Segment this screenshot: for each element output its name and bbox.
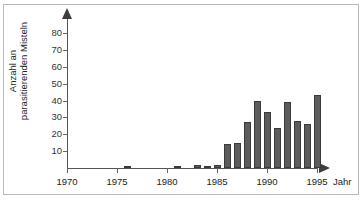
x-tick-label: 1980 [156,176,177,187]
bar [234,143,241,168]
x-tick-mark [317,168,318,173]
x-tick-label: 1990 [256,176,277,187]
y-tick-mark [63,101,67,102]
bar [274,128,281,169]
x-tick-label: 1975 [106,176,127,187]
bar [124,166,131,168]
x-tick-label: 1985 [206,176,227,187]
y-tick-label: 30 [51,112,62,121]
y-tick-label: 60 [51,62,62,71]
y-tick-mark [63,134,67,135]
bar [244,122,251,168]
bar [284,102,291,168]
y-tick-label: 80 [51,28,62,37]
y-tick-label: 20 [51,129,62,138]
x-tick-mark [67,168,68,173]
bar [314,95,321,168]
bar [194,165,201,168]
x-tick-mark [117,168,118,173]
x-tick-label: 1970 [56,176,77,187]
y-axis-line [67,17,68,169]
y-axis-arrow-icon [62,8,72,19]
bar [304,124,311,168]
y-tick-mark [63,151,67,152]
y-axis-title: Anzahl an parasitierenden Misteln [7,1,29,141]
bar [204,166,211,168]
y-tick-mark [63,84,67,85]
y-tick-mark [63,117,67,118]
bar [294,121,301,168]
plot-area: 80 70 60 50 40 30 20 10 1970 1975 1980 1… [0,0,364,200]
bar [174,166,181,168]
x-tick-mark [267,168,268,173]
y-tick-label: 10 [51,146,62,155]
y-tick-label: 70 [51,45,62,54]
x-tick-label: 1995 [306,176,327,187]
y-tick-mark [63,67,67,68]
bar [264,112,271,168]
y-tick-label: 50 [51,79,62,88]
chart-figure: 80 70 60 50 40 30 20 10 1970 1975 1980 1… [0,0,364,200]
bar [224,144,231,168]
x-tick-mark [217,168,218,173]
y-tick-mark [63,50,67,51]
y-tick-mark [63,33,67,34]
x-tick-mark [167,168,168,173]
bar [214,165,221,168]
bar [254,101,261,169]
x-axis-arrow-icon [319,163,330,173]
y-tick-label: 40 [51,96,62,105]
x-axis-title: Jahr [333,176,351,187]
x-axis-line [67,168,318,169]
